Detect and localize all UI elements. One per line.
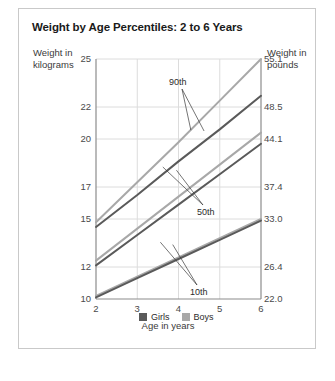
annotation-leader-line — [182, 89, 204, 131]
y-axis-left-tick: 20 — [67, 133, 91, 144]
y-axis-right-tick: 26.4 — [264, 261, 294, 272]
y-axis-right-tick: 33.0 — [264, 213, 294, 224]
legend-label: Girls — [151, 312, 170, 322]
y-axis-right-tick: 44.1 — [264, 133, 294, 144]
percentile-10-label: 10th — [190, 287, 208, 297]
chart-legend: GirlsBoys — [139, 312, 214, 322]
y-axis-left-tick: 15 — [67, 213, 91, 224]
annotation-leader-line — [163, 167, 203, 205]
percentile-50-label: 50th — [197, 207, 215, 217]
legend-label: Boys — [194, 312, 214, 322]
y-axis-left-tick: 22 — [67, 101, 91, 112]
annotation-leader-line — [176, 170, 203, 205]
x-axis-tick: 6 — [252, 303, 270, 314]
annotation-leader-line — [182, 89, 191, 130]
legend-swatch-icon — [139, 313, 147, 321]
y-axis-left-tick: 17 — [67, 181, 91, 192]
legend-item: Girls — [139, 312, 170, 322]
chart-figure: Weight by Age Percentiles: 2 to 6 Years … — [18, 8, 316, 349]
percentile-90-label: 90th — [169, 77, 187, 87]
y-axis-left-tick: 12 — [67, 261, 91, 272]
y-axis-right-tick: 37.4 — [264, 181, 294, 192]
x-axis-tick: 2 — [87, 303, 105, 314]
legend-item: Boys — [182, 312, 214, 322]
y-axis-right-tick: 55.1 — [264, 53, 294, 64]
legend-swatch-icon — [182, 313, 190, 321]
y-axis-left-tick: 25 — [67, 53, 91, 64]
y-axis-right-tick: 48.5 — [264, 101, 294, 112]
